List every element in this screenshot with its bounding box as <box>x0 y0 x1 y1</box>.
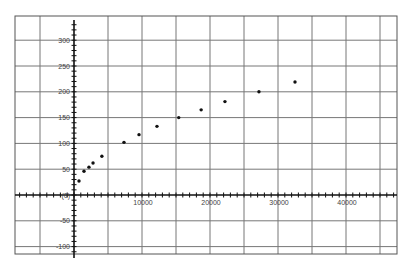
axis-ticks <box>20 25 394 252</box>
x-tick-label: 10000 <box>133 199 153 206</box>
data-point <box>257 90 260 93</box>
data-point <box>82 170 85 173</box>
x-tick-label: 40000 <box>337 199 357 206</box>
plot-frame <box>15 16 397 254</box>
y-tick-label: 300 <box>58 37 70 44</box>
y-tick-label: -50 <box>60 217 70 224</box>
y-tick-label: (0) <box>61 192 70 200</box>
data-point <box>122 141 125 144</box>
data-points <box>77 80 296 182</box>
y-tick-label: 150 <box>58 114 70 121</box>
y-tick-label: -100 <box>56 243 70 250</box>
x-tick-label: 20000 <box>201 199 221 206</box>
data-point <box>223 100 226 103</box>
grid-lines <box>15 16 397 254</box>
data-point <box>155 125 158 128</box>
scatter-chart: 30025020015010050(0)-50-1001000020000300… <box>0 0 411 269</box>
data-point <box>91 161 94 164</box>
data-point <box>87 165 90 168</box>
y-tick-label: 50 <box>62 166 70 173</box>
data-point <box>100 155 103 158</box>
x-tick-label: 30000 <box>269 199 289 206</box>
y-tick-label: 200 <box>58 88 70 95</box>
data-point <box>177 116 180 119</box>
data-point <box>137 133 140 136</box>
y-tick-label: 250 <box>58 63 70 70</box>
data-point <box>199 108 202 111</box>
data-point <box>293 80 296 83</box>
y-tick-label: 100 <box>58 140 70 147</box>
data-point <box>77 179 80 182</box>
